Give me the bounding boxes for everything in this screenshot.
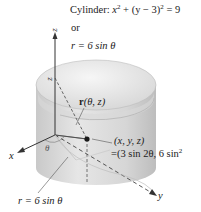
polar-equation: r = 6 sin θ — [71, 40, 115, 52]
z-axis-label: z — [48, 28, 60, 32]
height-label: z — [43, 77, 55, 81]
cartesian-equation: Cylinder: x2 + (y − 3)2 = 9 — [70, 4, 180, 16]
y-axis-arrow-icon — [149, 189, 157, 196]
z-axis-arrow-icon — [53, 32, 58, 39]
base-curve-label: r = 6 sin θ — [18, 195, 62, 207]
theta-label: θ — [45, 142, 49, 154]
or-label: or — [71, 22, 80, 34]
position-vector-label: r(θ, z) — [79, 96, 105, 108]
y-axis-label: y — [158, 190, 163, 202]
point-label: (x, y, z) — [114, 135, 144, 147]
point-marker — [84, 136, 89, 141]
x-axis-arrow-icon — [17, 147, 25, 153]
x-axis-label: x — [9, 150, 14, 162]
point-value: =(3 sin 2θ, 6 sin2 — [111, 148, 182, 160]
